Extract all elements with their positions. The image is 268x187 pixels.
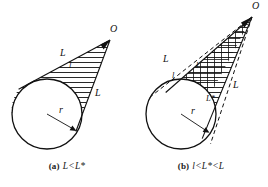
- chord-label-l-a: l: [69, 61, 71, 70]
- radius-label-r-a: r: [59, 105, 63, 115]
- chord-label-l-b: l: [172, 71, 174, 80]
- caption-a: (a)L<L*: [0, 161, 134, 171]
- radius-label-r-b: r: [191, 106, 195, 116]
- caption-b: (b)l<L*<L: [134, 161, 268, 171]
- figure-root: O L L l r (a)L<L*: [0, 0, 268, 187]
- lower-tangent-label-L-b: L: [233, 80, 239, 90]
- apex-label-O-a: O: [110, 24, 117, 34]
- caption-expr-b: l<L*<L: [192, 161, 224, 171]
- panel-b: O L L l l L* r (b)l<L*<L: [134, 0, 268, 187]
- apex-label-O-b: O: [252, 1, 259, 11]
- panel-a: O L L l r (a)L<L*: [0, 0, 134, 187]
- upper-tangent-label-L-a: L: [60, 48, 66, 58]
- upper-tangent-label-L-b: L: [163, 54, 169, 64]
- caption-tag-a: (a): [49, 161, 60, 171]
- inner-label-l-b: l: [196, 61, 198, 70]
- lower-tangent-label-L-a: L: [95, 88, 101, 98]
- critical-label-L-star-b: L*: [206, 94, 215, 103]
- caption-tag-b: (b): [178, 161, 190, 171]
- hatched-cone-region-b: [134, 0, 268, 165]
- caption-expr-a: L<L*: [63, 161, 86, 171]
- panel-b-drawing: [134, 0, 268, 165]
